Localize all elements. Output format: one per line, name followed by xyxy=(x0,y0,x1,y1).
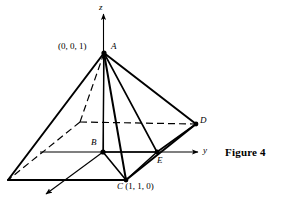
vertex-dot-E xyxy=(155,150,160,155)
edge-A-B xyxy=(103,53,104,152)
vertex-dot-D xyxy=(194,122,199,127)
vertex-dot-A xyxy=(101,50,106,55)
vertex-label-B: B xyxy=(91,138,97,147)
pyramid-diagram xyxy=(0,0,282,200)
z-axis-label: z xyxy=(99,3,103,12)
edge-A-F xyxy=(8,53,104,180)
base-coordinate-label: (1, 1, 0) xyxy=(125,181,154,191)
edge-E-D xyxy=(157,124,196,152)
edge-back-vertex-to-left-vertex xyxy=(8,122,80,180)
vertex-label-C-with-coordinate: C (1, 1, 0) xyxy=(117,182,154,191)
y-axis-label: y xyxy=(203,146,207,155)
figure-container: z y (0, 0, 1) A B C (1, 1, 0) D E Figure… xyxy=(0,0,282,200)
edge-A-D xyxy=(104,53,196,124)
vertex-dot-B xyxy=(100,149,105,154)
edge-E-C xyxy=(126,152,157,180)
apex-coordinate-label: (0, 0, 1) xyxy=(58,42,87,51)
vertex-label-E: E xyxy=(157,156,163,165)
hidden-edges xyxy=(8,53,194,180)
edge-back-vertex-to-D xyxy=(80,122,194,124)
x-axis-line xyxy=(46,152,103,194)
edge-apex-to-back-vertex xyxy=(80,53,104,122)
vertex-label-D: D xyxy=(200,116,207,125)
axis-x xyxy=(46,152,103,194)
vertex-label-A: A xyxy=(111,42,117,51)
figure-caption: Figure 4 xyxy=(225,147,266,158)
visible-edges xyxy=(8,53,196,180)
